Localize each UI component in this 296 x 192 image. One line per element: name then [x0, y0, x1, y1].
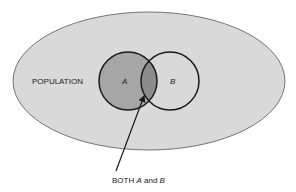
set-b-label: B — [170, 77, 176, 86]
both-annotation: BOTH A and B — [112, 176, 166, 185]
set-a-label: A — [121, 77, 127, 86]
population-label: POPULATION — [32, 77, 83, 86]
venn-diagram: POPULATION A B BOTH A and B — [0, 0, 296, 192]
